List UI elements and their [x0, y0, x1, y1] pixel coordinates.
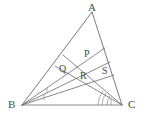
- geometry-figure: A B C P Q R S: [0, 0, 148, 123]
- segment-cevian-B-E1: [22, 48, 105, 105]
- point-label-P: P: [84, 49, 90, 59]
- point-label-Q: Q: [59, 64, 66, 74]
- segment-cevian-B-E3: [22, 75, 114, 105]
- point-label-S: S: [102, 66, 108, 76]
- point-label-R: R: [80, 71, 87, 81]
- triangle-diagram-canvas: [0, 0, 148, 123]
- vertex-label-A: A: [88, 2, 96, 13]
- vertex-label-C: C: [128, 99, 135, 110]
- segment-cevian-C-F1: [63, 55, 122, 105]
- vertex-label-B: B: [8, 99, 15, 110]
- triangle-outline: [22, 12, 122, 105]
- cevians-from-B: [22, 48, 114, 105]
- segment-side-AC: [92, 12, 122, 105]
- angle-marks-at-C: [98, 91, 111, 105]
- segment-side-AB: [22, 12, 92, 105]
